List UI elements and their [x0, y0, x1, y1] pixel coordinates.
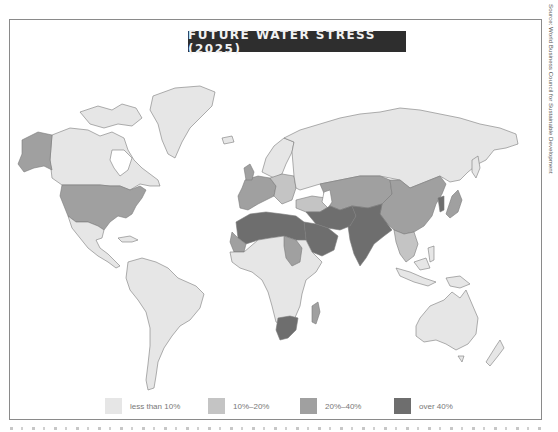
region-australia — [416, 290, 478, 350]
region-madagascar — [312, 302, 320, 324]
legend-swatch — [300, 398, 317, 414]
caption-text-fragment — [10, 427, 548, 430]
legend-label: 10%–20% — [233, 402, 269, 411]
region-uk — [244, 164, 254, 180]
source-text: Source: World Business Council for Susta… — [548, 4, 555, 173]
legend-swatch — [394, 398, 411, 414]
region-tasmania — [458, 356, 464, 362]
region-new-zealand — [486, 340, 504, 366]
legend: less than 10% 10%–20% 20%–40% over 40% — [60, 398, 480, 418]
legend-label: less than 10% — [130, 402, 180, 411]
legend-item-low-mid: 10%–20% — [208, 398, 269, 414]
region-greenland — [150, 86, 215, 158]
region-western-europe — [238, 176, 276, 210]
region-korea — [438, 196, 444, 212]
region-scandinavia — [262, 138, 294, 178]
legend-swatch — [105, 398, 122, 414]
region-arctic-islands — [80, 104, 142, 128]
cropped-caption — [0, 424, 558, 432]
legend-item-high-mid: 20%–40% — [300, 398, 361, 414]
region-russia — [284, 108, 518, 190]
region-papua — [446, 276, 470, 288]
region-philippines — [428, 246, 434, 262]
legend-item-high: over 40% — [394, 398, 453, 414]
region-canada — [50, 128, 160, 190]
legend-label: 20%–40% — [325, 402, 361, 411]
region-japan — [446, 190, 462, 218]
region-iceland — [222, 136, 234, 144]
region-sakhalin — [472, 156, 480, 178]
region-caribbean — [118, 236, 138, 242]
world-map — [10, 60, 540, 395]
region-southeast-asia — [394, 230, 418, 262]
region-south-africa — [276, 316, 298, 340]
legend-label: over 40% — [419, 402, 453, 411]
source-credit: Source: World Business Council for Susta… — [543, 2, 557, 217]
region-alaska — [18, 132, 52, 172]
map-title: FUTURE WATER STRESS (2025) — [188, 31, 406, 52]
region-south-america — [126, 258, 204, 390]
legend-swatch — [208, 398, 225, 414]
legend-item-low: less than 10% — [105, 398, 180, 414]
